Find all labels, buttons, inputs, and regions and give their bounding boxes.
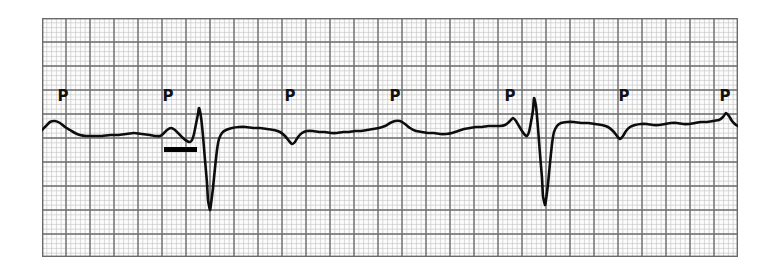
p-wave-label-4: P: [390, 89, 401, 104]
ecg-figure: PPPPPPP: [0, 0, 775, 273]
p-wave-label-6: P: [619, 89, 630, 104]
ecg-trace-path: [42, 98, 738, 210]
p-wave-label-1: P: [58, 89, 69, 104]
p-wave-label-3: P: [285, 89, 296, 104]
ecg-strip: PPPPPPP: [42, 18, 738, 257]
p-wave-label-2: P: [163, 89, 174, 104]
calibration-marker-bar: [164, 147, 197, 152]
p-wave-label-7: P: [720, 89, 731, 104]
p-wave-label-5: P: [505, 89, 516, 104]
ecg-waveform: [42, 18, 738, 257]
